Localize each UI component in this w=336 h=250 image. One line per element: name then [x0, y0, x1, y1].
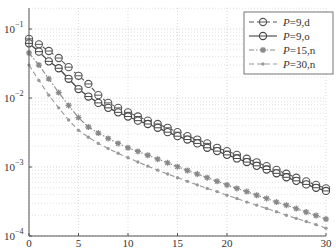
dot-marker: [116, 152, 119, 155]
star-marker: [115, 140, 121, 146]
star-marker: [85, 124, 91, 130]
dot-marker: [136, 160, 139, 163]
star-marker: [194, 171, 200, 177]
dot-marker: [305, 220, 308, 223]
dot-marker: [245, 200, 248, 203]
legend-label: P=9,o: [282, 30, 310, 42]
dot-marker: [57, 106, 60, 109]
dot-marker: [295, 217, 298, 220]
x-tick-label: 10: [123, 237, 135, 249]
dot-marker: [126, 156, 129, 159]
star-marker: [105, 135, 111, 141]
dot-marker: [166, 172, 169, 175]
star-marker: [244, 189, 250, 195]
chart: 051015203010−110−210−310−4 P=9,dP=9,oP=1…: [0, 0, 336, 250]
star-marker: [165, 160, 171, 166]
star-marker: [76, 115, 82, 121]
star-marker: [95, 130, 101, 136]
dot-marker: [314, 223, 317, 226]
star-marker: [224, 182, 230, 188]
star-marker: [56, 90, 62, 96]
star-marker: [66, 102, 72, 108]
x-tick-label: 15: [172, 237, 184, 249]
legend: P=9,dP=9,oP=15,nP=30,n: [244, 12, 333, 74]
star-marker: [155, 156, 161, 162]
dot-marker: [156, 168, 159, 171]
dot-marker: [77, 129, 80, 132]
star-marker: [135, 148, 141, 154]
dot-marker: [255, 203, 258, 206]
star-marker: [234, 185, 240, 191]
dot-marker: [324, 226, 327, 229]
star-marker: [283, 202, 289, 208]
dot-marker: [97, 142, 100, 145]
legend-label: P=15,n: [282, 44, 316, 56]
star-marker: [36, 62, 42, 68]
dot-marker: [176, 176, 179, 179]
dot-marker: [285, 214, 288, 217]
dot-marker: [37, 79, 40, 82]
dot-marker: [47, 93, 50, 96]
dot-marker: [87, 136, 90, 139]
x-tick-label: 20: [222, 237, 234, 249]
star-marker: [274, 199, 280, 205]
dot-marker: [206, 187, 209, 190]
dot-marker: [261, 62, 264, 65]
star-marker: [323, 216, 329, 222]
dot-marker: [196, 183, 199, 186]
dot-marker: [67, 118, 70, 121]
x-tick-label: 5: [76, 237, 82, 249]
y-tick-label: 10−4: [4, 227, 24, 242]
y-tick-label: 10−1: [4, 20, 24, 35]
dot-marker: [215, 190, 218, 193]
star-marker: [46, 76, 52, 82]
dot-marker: [265, 207, 268, 210]
star-marker: [264, 195, 270, 201]
y-tick-label: 10−2: [4, 89, 24, 104]
star-marker: [175, 164, 181, 170]
dot-marker: [275, 210, 278, 213]
star-marker: [184, 168, 190, 174]
star-marker: [313, 213, 319, 219]
star-marker: [214, 178, 220, 184]
star-marker: [125, 145, 131, 151]
dot-marker: [235, 197, 238, 200]
dot-marker: [225, 194, 228, 197]
legend-label: P=30,n: [282, 58, 316, 70]
star-marker: [260, 47, 266, 53]
star-marker: [254, 192, 260, 198]
x-tick-label: 30: [321, 237, 333, 249]
x-tick-label: 0: [26, 237, 32, 249]
legend-label: P=9,d: [282, 16, 310, 28]
star-marker: [204, 175, 210, 181]
dot-marker: [186, 180, 189, 183]
dot-marker: [107, 147, 110, 150]
star-marker: [293, 206, 299, 212]
dot-marker: [146, 164, 149, 167]
star-marker: [145, 152, 151, 158]
star-marker: [303, 209, 309, 215]
y-tick-label: 10−3: [4, 158, 24, 173]
